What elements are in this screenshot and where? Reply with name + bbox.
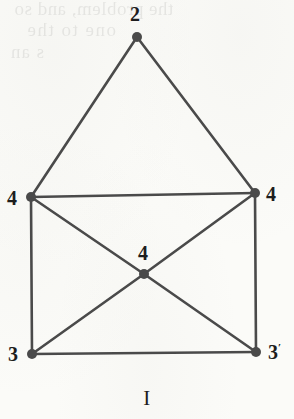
graph-node [250,188,260,198]
graph-edge [32,274,144,354]
figure-panel: the problem, and so one to the s an 2 4 … [0,0,294,419]
graph-node [251,347,261,357]
graph-edge [32,352,256,354]
vertex-label-right: 4 [266,184,276,204]
graph-node [132,32,142,42]
prime-mark: ′ [278,341,281,353]
figure-caption: I [0,386,294,411]
graph-edges [31,37,256,354]
vertex-label-center: 4 [138,243,148,263]
graph-node [27,349,37,359]
graph-edge [144,274,256,352]
graph-edge [31,193,255,197]
graph-edge [31,37,137,197]
graph-diagram [0,0,294,419]
graph-edge [137,37,255,193]
vertex-label-bottom-right: 3′ [268,342,281,362]
graph-edge [144,193,255,274]
vertex-label-left: 4 [7,188,17,208]
vertex-label-top: 2 [130,4,140,24]
graph-node [139,269,149,279]
graph-edge [255,193,256,352]
graph-node [26,192,36,202]
graph-edge [31,197,32,354]
graph-edge [31,197,144,274]
vertex-label-bottom-left: 3 [8,344,18,364]
